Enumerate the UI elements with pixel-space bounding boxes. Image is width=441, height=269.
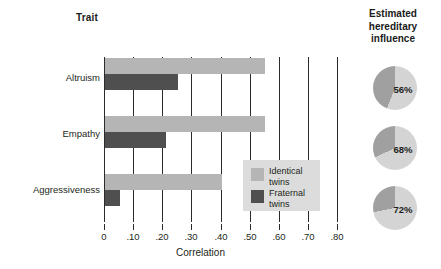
legend-swatch-identical <box>251 168 264 181</box>
x-tick-label-0: 0 <box>89 231 119 242</box>
legend-label-identical-line2: twins <box>269 177 321 188</box>
legend-label-fraternal-line1: Fraternal <box>269 188 321 199</box>
x-tick-mark-8 <box>337 224 338 230</box>
hereditary-influence-title: Estimated hereditary influence <box>349 8 437 46</box>
x-tick-label-5: .50 <box>235 231 265 242</box>
x-tick-label-8: .80 <box>322 231 352 242</box>
legend-swatch-fraternal <box>251 190 264 203</box>
category-label-empathy: Empathy <box>4 128 100 139</box>
x-axis-title: Correlation <box>0 247 441 258</box>
x-tick-label-2: .20 <box>147 231 177 242</box>
bar-altruism-identical-twins <box>105 58 265 74</box>
legend-label-identical: Identical twins <box>269 166 321 187</box>
x-axis-title-text: Correlation <box>176 247 225 258</box>
x-tick-label-1: .10 <box>118 231 148 242</box>
bar-aggressiveness-fraternal-twins <box>105 190 120 206</box>
legend-label-fraternal: Fraternal twins <box>269 188 321 209</box>
x-tick-label-6: .60 <box>264 231 294 242</box>
x-tick-mark-5 <box>250 224 251 230</box>
x-tick-label-3: .30 <box>176 231 206 242</box>
bar-aggressiveness-identical-twins <box>105 174 222 190</box>
bar-altruism-fraternal-twins <box>105 74 178 90</box>
x-tick-mark-6 <box>279 224 280 230</box>
legend-label-fraternal-line2: twins <box>269 199 321 210</box>
x-tick-label-4: .40 <box>206 231 236 242</box>
twin-study-figure: Trait Estimated hereditary influence Alt… <box>0 0 441 269</box>
pie-label-aggressiveness: 72% <box>381 204 425 215</box>
x-tick-mark-1 <box>133 224 134 230</box>
x-tick-mark-7 <box>308 224 309 230</box>
category-label-aggressiveness: Aggressiveness <box>4 184 100 195</box>
pie-label-altruism: 56% <box>381 84 425 95</box>
pie-label-empathy: 68% <box>381 144 425 155</box>
hereditary-title-line-2: hereditary <box>349 21 437 34</box>
hereditary-title-line-3: influence <box>349 33 437 46</box>
hereditary-title-line-1: Estimated <box>349 8 437 21</box>
x-tick-mark-2 <box>162 224 163 230</box>
x-tick-mark-4 <box>221 224 222 230</box>
legend-label-identical-line1: Identical <box>269 166 321 177</box>
gridline-p80 <box>337 57 338 222</box>
x-tick-mark-3 <box>191 224 192 230</box>
chart-legend: Identical twins Fraternal twins <box>243 160 320 211</box>
trait-column-title: Trait <box>76 12 98 23</box>
x-tick-mark-0 <box>104 224 105 230</box>
bar-empathy-fraternal-twins <box>105 132 166 148</box>
x-tick-label-7: .70 <box>293 231 323 242</box>
category-label-altruism: Altruism <box>4 72 100 83</box>
gridline-p40 <box>221 57 222 222</box>
bar-empathy-identical-twins <box>105 116 265 132</box>
gridline-p30 <box>191 57 192 222</box>
